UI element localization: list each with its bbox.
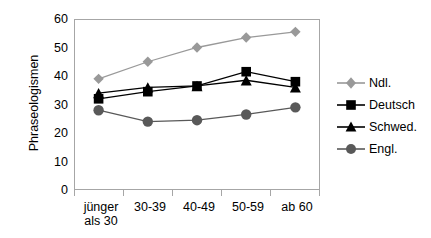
data-series-layer [93,27,301,127]
legend: Ndl. Deutsch Schwed. [336,72,428,160]
x-axis-ticks [75,190,320,196]
legend-label-deutsch: Deutsch [366,99,415,112]
x-tick-label-40-49: 40-49 [171,200,227,214]
legend-item-engl: Engl. [336,138,428,160]
legend-label-engl: Engl. [366,143,398,156]
legend-label-ndl: Ndl. [366,77,391,90]
series-engl [93,102,300,127]
legend-item-ndl: Ndl. [336,72,428,94]
legend-item-schwed: Schwed. [336,116,428,138]
diamond-marker-icon [336,74,366,92]
square-marker-icon [336,96,366,114]
chart-container: Phraseologismen 60 50 40 30 20 10 0 jüng… [0,0,431,238]
x-tick-label-30-39: 30-39 [122,200,178,214]
legend-label-schwed: Schwed. [366,121,417,134]
legend-item-deutsch: Deutsch [336,94,428,116]
x-tick-label-50-59: 50-59 [220,200,276,214]
x-tick-label-juenger-als-30: jünger als 30 [73,200,129,228]
circle-marker-icon [336,140,366,158]
x-tick-label-ab-60: ab 60 [269,200,325,214]
series-ndl [93,27,300,84]
triangle-marker-icon [336,118,366,136]
